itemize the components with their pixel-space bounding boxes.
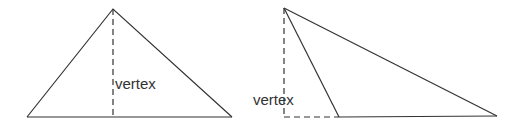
vertex-label-right: vertex <box>253 92 294 107</box>
vertex-label-left: vertex <box>115 76 156 91</box>
diagram: vertex vertex <box>0 0 518 128</box>
obtuse-triangle <box>284 8 497 117</box>
acute-triangle <box>27 9 232 117</box>
triangles-drawing <box>0 0 518 128</box>
